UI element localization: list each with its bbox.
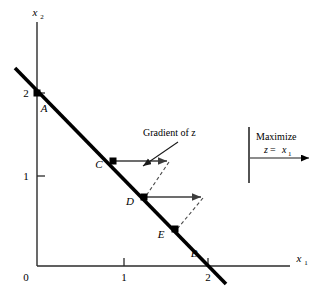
point-marker-e [172,226,179,233]
point-label-a: A [40,102,48,114]
point-label-e: E [157,228,165,240]
origin-label: 0 [23,271,29,283]
legend-maximize-label: Maximize [256,131,297,142]
legend-objective-value: x [281,144,287,155]
point-marker-c [110,158,117,165]
y-axis-label-sub: 2 [40,13,44,21]
y-tick-label-2: 2 [23,87,29,99]
linear-programming-diagram: 2 1 0 1 2 x 2 x 1 [0,0,317,292]
point-marker-d [141,194,148,201]
point-label-d: D [125,195,134,207]
legend-objective-var: z [263,144,268,155]
point-label-c: C [95,158,103,170]
x-axis-label-base: x [296,252,302,264]
gradient-annotation-text: Gradient of z [143,127,196,138]
point-label-b: B [191,247,198,259]
y-tick-label-1: 1 [23,170,29,182]
point-marker-a [34,90,41,97]
x-axis-label-sub: 1 [304,259,308,267]
x-tick-label-1: 1 [121,271,127,283]
legend-objective-equals: = [270,144,276,155]
x-tick-label-2: 2 [205,271,211,283]
legend-objective-subscript: 1 [288,150,292,158]
diagram-canvas: 2 1 0 1 2 x 2 x 1 [0,0,317,292]
y-axis-label-base: x [32,6,38,18]
